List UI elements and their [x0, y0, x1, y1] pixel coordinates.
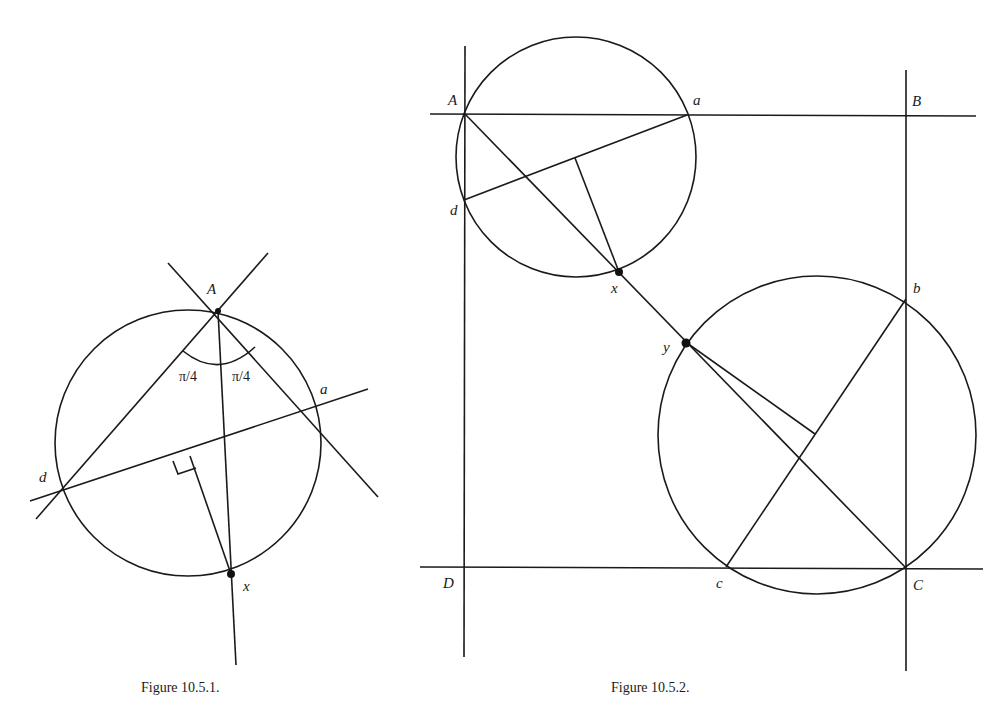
fig1-label-d: d	[39, 470, 47, 485]
fig2-label-A: A	[448, 93, 457, 108]
fig2-label-B: B	[912, 94, 921, 109]
fig1-angle-label-right: π/4	[232, 370, 250, 384]
fig2-label-C: C	[913, 578, 923, 593]
fig1-point-x	[227, 570, 235, 578]
fig2-perpendicular-upper	[575, 158, 619, 272]
fig2-line-DC	[420, 567, 983, 569]
fig2-label-a: a	[693, 93, 701, 108]
fig2-label-x: x	[611, 281, 618, 296]
fig1-label-x: x	[243, 579, 250, 594]
fig1-angle-arc	[183, 347, 255, 365]
fig2-label-y: y	[663, 340, 670, 355]
fig2-label-D: D	[443, 576, 454, 591]
fig2-circle-lower	[658, 276, 976, 594]
figure-10-5-1-drawing	[30, 253, 378, 665]
fig2-perpendicular-lower	[687, 343, 815, 434]
fig1-line-A-d	[36, 253, 268, 519]
fig1-label-a: a	[320, 382, 328, 397]
fig2-point-x	[615, 268, 623, 276]
fig2-line-AD	[464, 46, 465, 657]
fig1-caption: Figure 10.5.1.	[141, 681, 220, 695]
figure-10-5-2-drawing	[420, 37, 983, 671]
fig2-label-b: b	[913, 281, 921, 296]
figures-canvas	[0, 0, 1004, 711]
fig2-label-c: c	[716, 576, 723, 591]
fig1-point-A	[215, 308, 221, 314]
fig2-point-y	[682, 339, 691, 348]
fig1-angle-label-left: π/4	[179, 370, 197, 384]
fig2-chord-d-a	[464, 115, 687, 200]
fig1-circle	[55, 310, 321, 576]
fig2-caption: Figure 10.5.2.	[611, 681, 690, 695]
fig2-label-d: d	[450, 203, 458, 218]
fig2-line-AB	[430, 114, 976, 116]
fig1-line-A-a	[168, 263, 378, 497]
fig1-perpendicular	[190, 456, 231, 574]
fig1-label-A: A	[207, 282, 216, 297]
fig2-chord-c-b	[726, 299, 906, 567]
